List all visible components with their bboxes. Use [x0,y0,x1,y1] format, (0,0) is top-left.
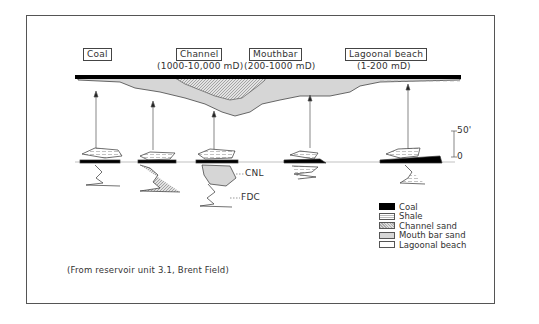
legend-item-coal: Coal [379,202,466,212]
label-channel: Channel [176,48,222,61]
label-lagoonal-beach: Lagoonal beach [345,48,427,61]
log-label-cnl: CNL [245,168,264,178]
mouth-bar-sand-swatch-icon [379,232,395,239]
channel-sand-swatch-icon [379,222,395,229]
coal-top-bar [75,75,461,79]
source-note: (From reservoir unit 3.1, Brent Field) [67,265,229,275]
scale-bottom-label: 0 [457,151,463,161]
perm-mouthbar: (200-1000 mD) [244,61,316,71]
legend-item-shale: Shale [379,212,466,222]
legend-item-mouth-bar-sand: Mouth bar sand [379,231,466,241]
log-label-fdc: FDC [241,192,260,202]
label-coal: Coal [83,48,112,61]
legend-item-channel-sand: Channel sand [379,221,466,231]
shale-swatch-icon [379,213,395,220]
coal-swatch-icon [379,203,395,210]
sand-body [78,78,460,116]
scale-top-label: 50' [457,125,472,135]
legend-item-lagoonal-beach: Lagoonal beach [379,240,466,250]
lagoonal-beach-swatch-icon [379,241,395,248]
legend: Coal Shale Channel sand Mouth bar sand L… [379,202,466,250]
perm-channel: (1000-10,000 mD) [157,61,243,71]
perm-lagoonal: (1-200 mD) [357,61,411,71]
label-mouthbar: Mouthbar [249,48,302,61]
